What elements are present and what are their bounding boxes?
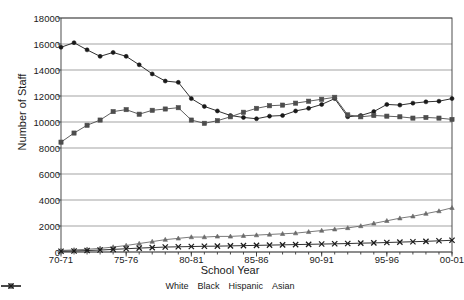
legend-item-hispanic: Hispanic xyxy=(229,281,264,291)
legend-label: Black xyxy=(197,281,219,291)
legend-label: Asian xyxy=(272,281,295,291)
legend-label: White xyxy=(165,281,188,291)
x-axis-title: School Year xyxy=(0,264,460,276)
chart-legend: WhiteBlackHispanicAsian xyxy=(0,281,460,291)
legend-item-white: White xyxy=(165,281,188,291)
legend-item-black: Black xyxy=(197,281,219,291)
legend-item-asian: Asian xyxy=(272,281,295,291)
legend-marker-cross-icon xyxy=(0,281,22,291)
legend-label: Hispanic xyxy=(229,281,264,291)
